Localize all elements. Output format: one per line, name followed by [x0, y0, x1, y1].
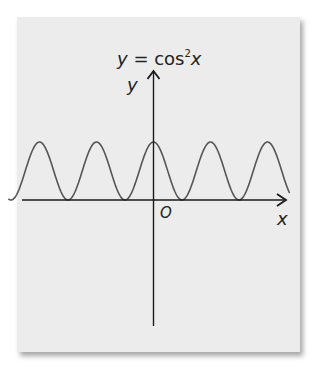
- chart-title: y = cos2x: [116, 48, 202, 69]
- curve-cos-squared: [8, 142, 289, 200]
- y-axis-label: y: [126, 74, 138, 95]
- x-axis-label: x: [276, 208, 288, 229]
- cos-squared-plot: y = cos2x y x O: [0, 0, 320, 374]
- origin-label: O: [160, 204, 172, 222]
